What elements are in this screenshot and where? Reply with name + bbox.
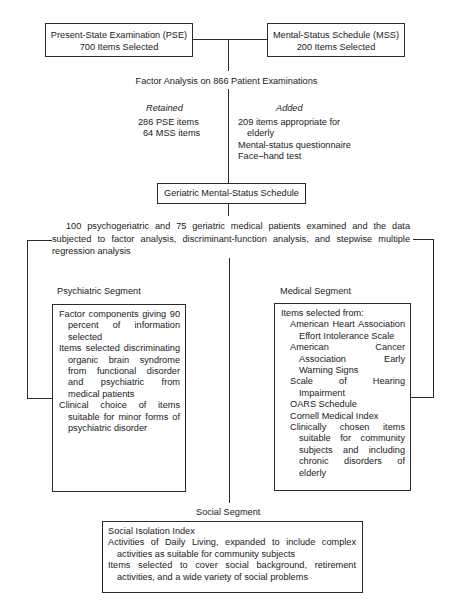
gmss-title: Geriatric Mental-Status Schedule xyxy=(164,188,299,198)
mss-title: Mental-Status Schedule (MSS) xyxy=(268,29,404,41)
connector-pse-mss xyxy=(192,39,267,40)
mss-count: 200 Items Selected xyxy=(268,41,404,53)
social-heading: Social Segment xyxy=(196,507,260,517)
medical-source: American Heart Association Effort Intole… xyxy=(290,319,405,342)
bracket-left-bottom xyxy=(27,398,52,399)
added-list: 209 items appropriate for elderly Mental… xyxy=(238,117,358,163)
psychiatric-box: Factor components giving 90 percent of i… xyxy=(52,304,186,492)
pse-title: Present-State Examination (PSE) xyxy=(46,29,192,41)
retained-item: 286 PSE items xyxy=(138,117,218,128)
retained-item: 64 MSS items xyxy=(138,128,218,139)
added-item: Mental-status questionnaire xyxy=(238,140,358,151)
social-item: Items selected to cover social backgroun… xyxy=(108,560,356,583)
connector-to-social xyxy=(229,258,230,503)
psychiatric-heading: Psychiatric Segment xyxy=(57,286,141,296)
connector-gmss-to-study xyxy=(228,203,229,216)
added-item: 209 items appropriate for elderly xyxy=(238,117,358,140)
medical-source: Scale of Hearing Impairment xyxy=(290,376,405,399)
medical-source: Clinically chosen items suitable for com… xyxy=(290,422,405,479)
bracket-left-top xyxy=(27,240,52,241)
psychiatric-item: Items selected discriminating organic br… xyxy=(59,343,180,400)
medical-sources: American Heart Association Effort Intole… xyxy=(281,319,405,479)
study-description: 100 psychogeriatric and 75 geriatric med… xyxy=(52,220,410,258)
bracket-right-vertical xyxy=(433,239,434,398)
factor-analysis-label: Factor Analysis on 866 Patient Examinati… xyxy=(0,76,453,86)
mss-box: Mental-Status Schedule (MSS) 200 Items S… xyxy=(267,23,405,57)
medical-box: Items selected from: American Heart Asso… xyxy=(274,303,411,491)
retained-heading: Retained xyxy=(146,103,183,113)
medical-heading: Medical Segment xyxy=(280,286,351,296)
psychiatric-item: Clinical choice of items suitable for mi… xyxy=(59,400,180,434)
pse-box: Present-State Examination (PSE) 700 Item… xyxy=(45,23,193,57)
social-box: Social Isolation Index Activities of Dai… xyxy=(102,521,363,593)
psychiatric-item: Factor components giving 90 percent of i… xyxy=(59,309,180,343)
bracket-left-vertical xyxy=(27,240,28,398)
medical-source: Cornell Medical Index xyxy=(290,411,405,422)
bracket-right-top xyxy=(413,239,434,240)
bracket-right-bottom xyxy=(410,397,434,398)
added-heading: Added xyxy=(276,103,303,113)
social-item: Social Isolation Index xyxy=(108,526,356,537)
added-item: Face–hand test xyxy=(238,151,358,162)
medical-intro: Items selected from: xyxy=(281,308,405,319)
connector-to-factor-analysis xyxy=(228,39,229,71)
gmss-box: Geriatric Mental-Status Schedule xyxy=(157,183,306,204)
medical-source: OARS Schedule xyxy=(290,399,405,410)
medical-source: American Cancer Association Early Warnin… xyxy=(290,342,405,376)
retained-list: 286 PSE items 64 MSS items xyxy=(138,117,218,140)
social-item: Activities of Daily Living, expanded to … xyxy=(108,537,356,560)
connector-factor-to-gmss xyxy=(228,89,229,183)
pse-count: 700 Items Selected xyxy=(46,41,192,53)
